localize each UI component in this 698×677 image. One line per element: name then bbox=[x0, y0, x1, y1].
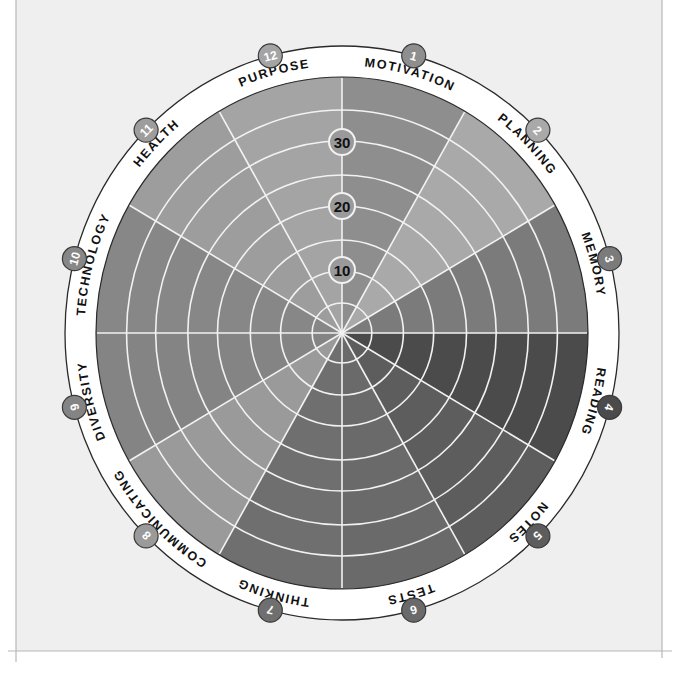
badge-1: 1 bbox=[402, 44, 426, 68]
scale-label-30: 30 bbox=[329, 129, 355, 155]
badge-12: 12 bbox=[258, 44, 282, 68]
badge-7: 7 bbox=[258, 598, 282, 622]
wheel-chart: 102030 MOTIVATIONPLANNINGMEMORYREADINGNO… bbox=[0, 0, 698, 677]
badge-2: 2 bbox=[526, 118, 550, 142]
scale-label-20: 20 bbox=[329, 193, 355, 219]
badge-8: 8 bbox=[134, 524, 158, 548]
badge-9: 9 bbox=[62, 395, 86, 419]
badge-11: 11 bbox=[134, 118, 158, 142]
wheel-chart-figure: 102030 MOTIVATIONPLANNINGMEMORYREADINGNO… bbox=[0, 0, 698, 677]
scale-value: 30 bbox=[334, 134, 351, 151]
badge-3: 3 bbox=[598, 247, 622, 271]
badge-5: 5 bbox=[526, 524, 550, 548]
badge-6: 6 bbox=[402, 598, 426, 622]
scale-value: 20 bbox=[334, 198, 351, 215]
scale-value: 10 bbox=[334, 262, 351, 279]
scale-labels: 102030 bbox=[329, 129, 355, 283]
badge-10: 10 bbox=[62, 247, 86, 271]
scale-label-10: 10 bbox=[329, 257, 355, 283]
badge-4: 4 bbox=[598, 395, 622, 419]
